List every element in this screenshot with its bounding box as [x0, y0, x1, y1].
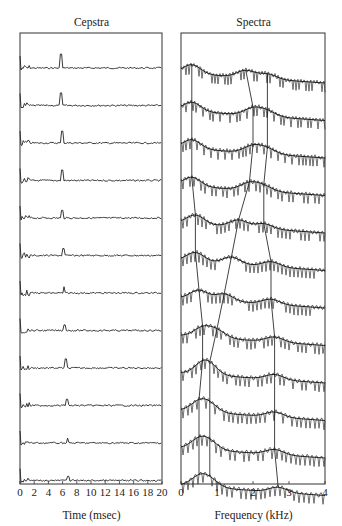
x-tick-label: 12 — [100, 486, 111, 498]
x-tick-label: 20 — [157, 486, 168, 498]
x-tick-label: 16 — [128, 486, 139, 498]
cepstra-frame — [20, 33, 162, 484]
x-tick-label: 18 — [142, 486, 153, 498]
x-tick-label: 2 — [31, 486, 37, 498]
x-tick-label: 4 — [322, 486, 328, 498]
formant-tracks — [192, 65, 278, 488]
x-tick-label: 1 — [214, 486, 220, 498]
cepstra-x-axis-label: Time (msec) — [20, 509, 163, 521]
x-tick-label: 2 — [250, 486, 256, 498]
x-tick-label: 6 — [60, 486, 66, 498]
x-tick-label: 10 — [86, 486, 97, 498]
spectra-x-axis-label: Frequency (kHz) — [181, 509, 326, 521]
figure-canvas — [0, 0, 342, 526]
cepstra-traces — [20, 54, 161, 483]
x-tick-label: 0 — [17, 486, 23, 498]
x-tick-label: 8 — [74, 486, 80, 498]
x-tick-label: 14 — [114, 486, 125, 498]
x-tick-label: 3 — [286, 486, 292, 498]
x-tick-label: 4 — [46, 486, 52, 498]
x-tick-label: 0 — [178, 486, 184, 498]
